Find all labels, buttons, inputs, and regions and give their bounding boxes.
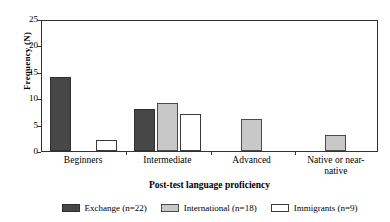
y-axis-tick-label: 25 — [2, 15, 38, 24]
plot-area — [41, 20, 378, 152]
bar-exchange-intermediate — [134, 109, 155, 151]
legend-item-international: International (n=18) — [161, 203, 257, 213]
y-axis-tick-label: 20 — [2, 41, 38, 50]
y-axis-tick-label: 15 — [2, 68, 38, 77]
bar-international-advanced — [241, 119, 262, 151]
legend-swatch-immigrants — [271, 204, 289, 212]
bar-immigrants-intermediate — [180, 114, 201, 151]
bar-chart-figure: Frequency (N) 0510152025 BeginnersInterm… — [0, 0, 390, 222]
legend-label-exchange: Exchange (n=22) — [85, 203, 147, 213]
bar-international-native-or-near-native — [325, 135, 346, 151]
x-axis-title: Post-test language proficiency — [41, 180, 378, 190]
chart-legend: Exchange (n=22)International (n=18)Immig… — [41, 201, 378, 215]
bar-immigrants-beginners — [96, 140, 117, 151]
y-axis-tickmark — [37, 152, 41, 153]
y-axis-tick-label: 5 — [2, 121, 38, 130]
bar-exchange-beginners — [50, 77, 71, 151]
bar-international-intermediate — [157, 103, 178, 151]
legend-label-international: International (n=18) — [184, 203, 257, 213]
legend-label-immigrants: Immigrants (n=9) — [294, 203, 358, 213]
legend-swatch-international — [161, 204, 179, 212]
legend-item-immigrants: Immigrants (n=9) — [271, 203, 358, 213]
legend-item-exchange: Exchange (n=22) — [62, 203, 147, 213]
y-axis-tick-label: 10 — [2, 94, 38, 103]
legend-swatch-exchange — [62, 204, 80, 212]
x-axis-category-label: Native or near- native — [286, 155, 386, 177]
